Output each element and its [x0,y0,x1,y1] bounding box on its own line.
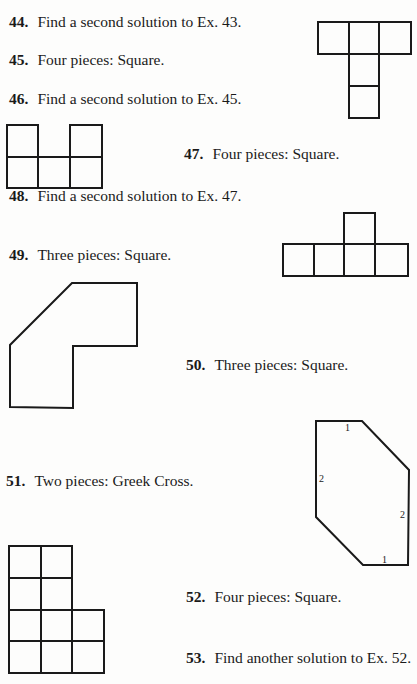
labeled-polygon-figure: 1 2 2 1 [316,421,409,565]
edge-label: 2 [319,473,324,484]
row-with-bump-figure [283,213,408,276]
exercise-47: 47.Four pieces: Square. [184,145,339,163]
exercise-text: Four pieces: Square. [214,588,341,605]
exercise-text: Find a second solution to Ex. 47. [37,187,241,204]
exercise-number: 53. [186,649,205,667]
exercise-number: 49. [9,246,28,264]
exercise-text: Three pieces: Square. [37,246,171,263]
edge-label: 1 [345,422,350,433]
exercise-number: 46. [9,90,28,108]
exercise-46: 46.Find a second solution to Ex. 45. [9,90,241,108]
exercise-50: 50.Three pieces: Square. [186,356,348,374]
exercise-48: 48.Find a second solution to Ex. 47. [9,187,241,205]
exercise-text: Four pieces: Square. [212,145,339,162]
exercise-text: Two pieces: Greek Cross. [34,472,193,489]
exercise-44: 44.Find a second solution to Ex. 43. [9,13,241,31]
exercise-text: Find a second solution to Ex. 45. [37,90,241,107]
exercise-number: 50. [186,356,205,374]
l-grid-figure [9,546,104,673]
puzzle-page: 44.Find a second solution to Ex. 43. 45.… [0,0,417,684]
exercise-text: Three pieces: Square. [214,356,348,373]
exercise-number: 52. [186,588,205,606]
exercise-number: 44. [9,13,28,31]
exercise-number: 47. [184,145,203,163]
edge-label: 1 [382,554,387,565]
exercise-53: 53.Find another solution to Ex. 52. [186,649,411,667]
exercise-text: Find a second solution to Ex. 43. [37,13,241,30]
edge-label: 2 [400,509,405,520]
exercise-51: 51.Two pieces: Greek Cross. [6,472,193,490]
bent-polygon-figure [10,283,137,408]
exercise-45: 45.Four pieces: Square. [9,51,164,69]
exercise-number: 45. [9,51,28,69]
u-shape-figure [7,125,102,188]
exercise-number: 48. [9,187,28,205]
exercise-text: Four pieces: Square. [37,51,164,68]
exercise-number: 51. [6,472,25,490]
exercise-49: 49.Three pieces: Square. [9,246,171,264]
exercise-52: 52.Four pieces: Square. [186,588,341,606]
exercise-text: Find another solution to Ex. 52. [214,649,411,666]
t-shape-figure [318,22,411,118]
